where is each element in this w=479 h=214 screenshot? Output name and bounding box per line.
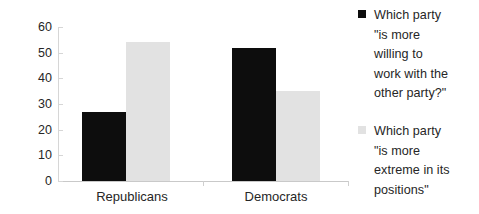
y-tickmark-30 (58, 104, 63, 105)
y-axis-tick-label: 10 (24, 146, 52, 164)
plot-area: 60 50 40 30 20 10 0 Republicans Democrat… (0, 0, 352, 214)
legend-swatch-light-gray-square-icon (358, 126, 366, 134)
y-tickmark-60 (58, 27, 63, 28)
y-tickmark-0 (58, 181, 63, 182)
bar-democrats-more-extreme (276, 91, 320, 181)
y-axis-tick-label: 60 (24, 18, 52, 36)
x-axis-category-label-republicans: Republicans (62, 188, 202, 206)
x-axis-end-tick (348, 181, 349, 186)
y-tickmark-50 (58, 53, 63, 54)
y-axis-tick-label: 30 (24, 95, 52, 113)
y-axis-tick-label: 20 (24, 121, 52, 139)
legend-item-willing-to-work: Which party "is more willing to work wit… (358, 5, 479, 103)
x-axis-category-label-democrats: Democrats (206, 188, 346, 206)
y-axis-tick-label: 50 (24, 44, 52, 62)
legend-label: Which party "is more willing to work wit… (374, 8, 448, 100)
x-axis-category-separator (203, 181, 204, 186)
bar-chart: 60 50 40 30 20 10 0 Republicans Democrat… (0, 0, 479, 214)
chart-legend: Which party "is more willing to work wit… (358, 5, 479, 214)
bar-democrats-willing-to-work (232, 48, 276, 181)
legend-item-more-extreme: Which party "is more extreme in its posi… (358, 121, 479, 199)
y-axis-tick-label: 0 (24, 172, 52, 190)
legend-label: Which party "is more extreme in its posi… (374, 124, 450, 197)
y-tickmark-10 (58, 155, 63, 156)
y-axis-tick-label: 40 (24, 69, 52, 87)
y-tickmark-40 (58, 78, 63, 79)
legend-swatch-black-square-icon (358, 10, 366, 18)
bar-republicans-willing-to-work (82, 112, 126, 181)
y-tickmark-20 (58, 130, 63, 131)
y-axis-labels: 60 50 40 30 20 10 0 (22, 0, 52, 214)
bar-republicans-more-extreme (126, 42, 170, 181)
